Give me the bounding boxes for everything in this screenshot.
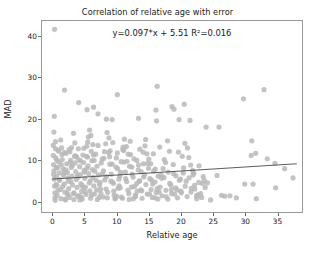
scatter-point [115,150,120,155]
scatter-point [180,154,185,159]
scatter-point [90,142,95,147]
scatter-point [152,179,157,184]
y-tick-label: 30 [28,73,37,82]
scatter-point [84,144,89,149]
scatter-point [175,195,180,200]
scatter-point [160,166,165,171]
scatter-point [107,162,112,167]
scatter-point [165,197,170,202]
y-tick-label: 40 [28,31,37,40]
scatter-point [83,184,88,189]
scatter-point [176,117,181,122]
x-axis-ticks: 05101520253035 [41,213,303,227]
scatter-point [119,194,124,199]
scatter-point [71,191,76,196]
scatter-point [78,172,83,177]
scatter-point [134,158,139,163]
scatter-point [181,165,186,170]
scatter-point [161,175,166,180]
scatter-point [153,107,158,112]
scatter-point [143,182,148,187]
scatter-point [151,151,156,156]
scatter-point [68,158,73,163]
scatter-point [182,102,187,107]
scatter-point [190,172,195,177]
scatter-point [157,144,162,149]
x-tick-label: 25 [208,217,217,226]
scatter-point [80,197,85,202]
scatter-point [163,188,168,193]
scatter-point [96,172,101,177]
scatter-point [95,197,100,202]
scatter-point [253,151,258,156]
scatter-point [136,162,141,167]
scatter-point [118,185,123,190]
y-tick-mark [38,77,41,78]
scatter-point [58,187,63,192]
scatter-point [60,157,65,162]
scatter-point [129,164,134,169]
chart-title: Correlation of relative age with error [0,7,315,17]
scatter-point [73,169,78,174]
scatter-point [143,137,148,142]
scatter-point [171,162,176,167]
x-tick-mark [52,213,53,216]
y-axis-label: MAD [3,89,13,129]
scatter-point [88,196,93,201]
scatter-point [82,168,87,173]
scatter-point [53,198,58,203]
scatter-point [203,185,208,190]
scatter-point [85,163,90,168]
scatter-point [111,189,116,194]
scatter-point [145,192,150,197]
scatter-point [76,157,81,162]
scatter-point [165,138,170,143]
scatter-point [208,197,213,202]
scatter-point [176,149,181,154]
scatter-point [141,161,146,166]
x-tick-mark [117,213,118,216]
scatter-point [103,141,108,146]
scatter-point [183,184,188,189]
scatter-point [79,189,84,194]
scatter-point [94,164,99,169]
scatter-point [56,170,61,175]
scatter-point [84,107,89,112]
scatter-point [216,125,221,130]
scatter-point [86,135,91,140]
scatter-point [188,162,193,167]
scatter-point [157,184,162,189]
scatter-point [142,143,147,148]
scatter-point [132,184,137,189]
scatter-point [87,127,92,132]
x-tick-label: 10 [112,217,121,226]
scatter-point [102,177,107,182]
scatter-point [54,165,59,170]
scatter-point [167,149,172,154]
scatter-point [110,117,115,122]
scatter-point [242,182,247,187]
scatter-point [282,166,287,171]
scatter-point [114,155,119,160]
y-tick-label: 0 [32,198,37,207]
scatter-point [171,107,176,112]
scatter-point [104,117,109,122]
scatter-plot-svg [42,21,302,212]
scatter-point [103,187,108,192]
scatter-point [234,195,239,200]
scatter-point [77,164,82,169]
x-tick-mark [84,213,85,216]
y-tick-label: 10 [28,156,37,165]
scatter-point [110,140,115,145]
scatter-point [186,155,191,160]
scatter-point [249,153,254,158]
scatter-point [59,145,64,150]
scatter-point [115,92,120,97]
scatter-point [60,166,65,171]
scatter-point [138,187,143,192]
scatter-point [136,167,141,172]
scatter-point [110,179,115,184]
scatter-point [185,194,190,199]
scatter-point [65,170,70,175]
scatter-point [71,131,76,136]
